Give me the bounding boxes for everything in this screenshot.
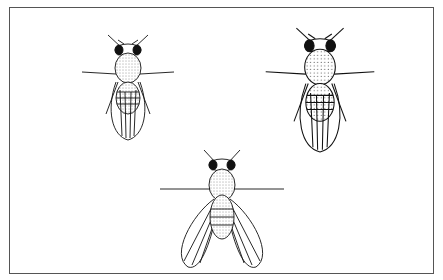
fly-top-left (82, 35, 174, 140)
fly-top-right (266, 28, 375, 152)
fly-bottom-center (160, 150, 284, 267)
fly-illustration (0, 0, 443, 280)
